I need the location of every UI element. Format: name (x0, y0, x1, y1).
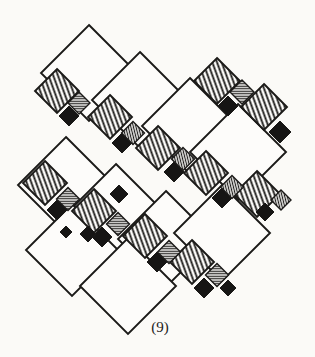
woven-squares-figure: (9) (0, 0, 315, 357)
tiles-layer (18, 25, 291, 334)
figure-label: (9) (151, 319, 169, 336)
figure-page: (9) (0, 0, 315, 357)
black-square-tile (220, 280, 236, 296)
